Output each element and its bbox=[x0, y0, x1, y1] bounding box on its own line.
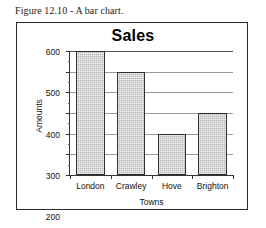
bar-brighton bbox=[198, 113, 227, 175]
y-tick-label: 200 bbox=[46, 212, 60, 222]
x-tick-mark-origin bbox=[70, 175, 71, 179]
y-tick-label: 600 bbox=[46, 47, 60, 57]
x-tick-mark bbox=[233, 175, 234, 179]
y-tick-label: 500 bbox=[46, 88, 60, 98]
bar-london bbox=[76, 51, 105, 175]
x-category-label-hove: Hove bbox=[162, 181, 182, 191]
bar-crawley bbox=[117, 72, 146, 175]
y-axis-label: Amounts bbox=[34, 86, 44, 146]
x-category-label-crawley: Crawley bbox=[116, 181, 147, 191]
chart-frame: Sales Amounts 6005004003002001000 London… bbox=[16, 22, 248, 210]
y-tick-label: 300 bbox=[46, 171, 60, 181]
plot-area: 6005004003002001000 LondonCrawleyHoveBri… bbox=[69, 51, 233, 176]
bar-hove bbox=[158, 134, 187, 175]
x-category-label-london: London bbox=[76, 181, 104, 191]
figure-container: Figure 12.10 - A bar chart. Sales Amount… bbox=[0, 0, 266, 228]
y-tick-label: 400 bbox=[46, 130, 60, 140]
x-tick-mark bbox=[152, 175, 153, 179]
x-axis-label: Towns bbox=[70, 197, 233, 207]
x-tick-mark bbox=[111, 175, 112, 179]
x-tick-mark bbox=[192, 175, 193, 179]
bars-layer bbox=[70, 51, 233, 175]
x-category-label-brighton: Brighton bbox=[197, 181, 229, 191]
figure-caption: Figure 12.10 - A bar chart. bbox=[15, 5, 124, 16]
chart-title: Sales bbox=[17, 27, 249, 45]
